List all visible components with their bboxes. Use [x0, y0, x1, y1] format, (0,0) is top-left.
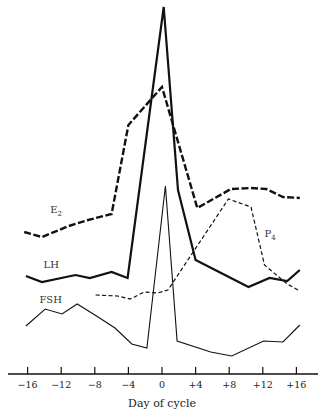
series-label-e2: E2	[50, 204, 62, 218]
series-label-p4: P4	[265, 228, 277, 242]
x-tick-label: 0	[159, 379, 165, 390]
series-label-lh: LH	[44, 259, 60, 270]
x-axis-ticks: −16−12−8−40+4+8+12+16	[18, 367, 307, 390]
x-axis-title: Day of cycle	[128, 397, 196, 410]
hormone-cycle-chart: E2LHP4FSH −16−12−8−40+4+8+12+16 Day of c…	[0, 0, 327, 418]
x-tick-label: −16	[18, 379, 38, 390]
x-tick-label: +16	[286, 379, 306, 390]
x-tick-label: −12	[51, 379, 71, 390]
x-tick-label: +8	[222, 379, 236, 390]
x-tick-label: −8	[88, 379, 102, 390]
series-line-lh	[26, 7, 300, 287]
x-tick-label: +4	[189, 379, 203, 390]
x-tick-label: −4	[121, 379, 135, 390]
series-label-fsh: FSH	[39, 294, 62, 305]
x-tick-label: +12	[253, 379, 273, 390]
series-lines	[24, 7, 300, 356]
series-line-fsh	[26, 186, 300, 356]
series-line-p4	[96, 199, 300, 299]
